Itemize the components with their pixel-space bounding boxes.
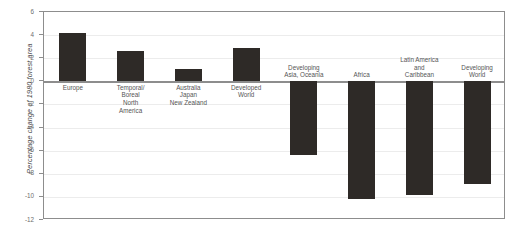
y-tick-mark: [39, 219, 43, 220]
bar: [59, 33, 86, 82]
bar: [117, 51, 144, 82]
y-axis-title: Percentage change of 1980 forest area: [25, 9, 34, 209]
category-label: Developed World: [209, 84, 283, 99]
gridline: [44, 197, 504, 198]
forest-area-change-bar-chart: Percentage change of 1980 forest area 64…: [0, 0, 515, 235]
bar: [406, 81, 433, 194]
zero-baseline: [44, 81, 504, 82]
y-tick-label: 4: [4, 31, 34, 38]
y-tick-label: -10: [4, 192, 34, 199]
y-tick-label: 2: [4, 54, 34, 61]
y-tick-label: -6: [4, 146, 34, 153]
y-tick-label: 0: [4, 77, 34, 84]
y-tick-label: -4: [4, 123, 34, 130]
plot-area: EuropeTemporal/ Boreal North AmericaAust…: [43, 11, 505, 219]
gridline: [44, 174, 504, 175]
bar: [290, 81, 317, 155]
bar: [464, 81, 491, 184]
gridline: [44, 35, 504, 36]
y-tick-label: -8: [4, 169, 34, 176]
y-tick-label: -12: [4, 216, 34, 223]
gridline: [44, 151, 504, 152]
category-label: Developing World: [440, 64, 514, 79]
bar: [348, 81, 375, 199]
bar: [175, 69, 202, 82]
y-tick-label: -2: [4, 100, 34, 107]
y-tick-label: 6: [4, 8, 34, 15]
gridline: [44, 128, 504, 129]
bar: [233, 48, 260, 81]
